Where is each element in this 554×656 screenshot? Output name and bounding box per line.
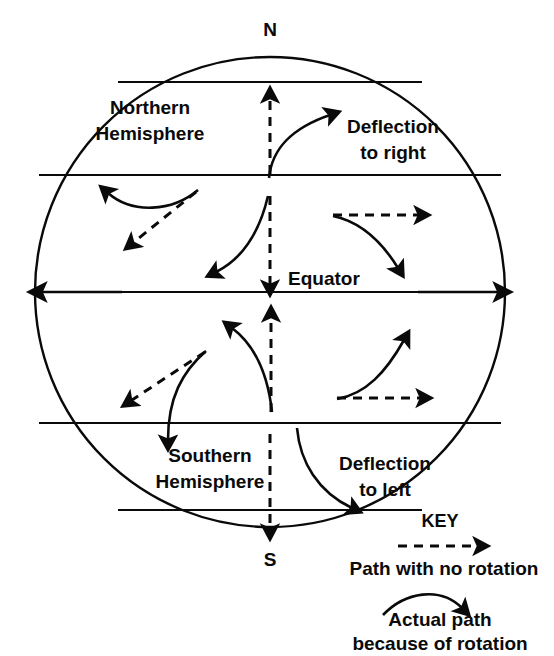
key-title: KEY — [421, 511, 458, 531]
deflection-left-label-line1: Deflection — [339, 453, 431, 474]
actual-path-northern-mid-center — [216, 196, 268, 272]
northern-hemisphere-label-line1: Northern — [110, 97, 190, 118]
key-label-actual-line1: Actual path — [388, 609, 491, 630]
no-rotation-path-northern-mid-left — [134, 192, 196, 242]
pole-south-label: S — [264, 549, 277, 570]
diagram-canvas: N S Northern Hemisphere Deflection to ri… — [0, 0, 554, 656]
southern-hemisphere-label-line1: Southern — [168, 445, 251, 466]
no-rotation-path-southern-mid-left — [132, 352, 205, 400]
coriolis-diagram: N S Northern Hemisphere Deflection to ri… — [0, 0, 554, 656]
actual-path-southern-mid-right — [337, 340, 404, 399]
deflection-left-label-line2: to left — [359, 479, 411, 500]
actual-path-southern-mid-center — [232, 328, 272, 412]
key-label-no-rotation: Path with no rotation — [350, 558, 539, 579]
actual-path-northern-mid-left — [108, 190, 198, 208]
deflection-right-label-line1: Deflection — [347, 116, 439, 137]
southern-hemisphere-label-line2: Hemisphere — [156, 471, 265, 492]
equator-label: Equator — [288, 268, 360, 289]
pole-north-label: N — [263, 19, 277, 40]
actual-path-northern-polar — [269, 115, 330, 178]
deflection-right-label-line2: to right — [360, 142, 426, 163]
actual-path-northern-mid-right — [333, 216, 398, 268]
key-label-actual-line2: because of rotation — [352, 633, 527, 654]
northern-hemisphere-label-line2: Hemisphere — [96, 123, 205, 144]
